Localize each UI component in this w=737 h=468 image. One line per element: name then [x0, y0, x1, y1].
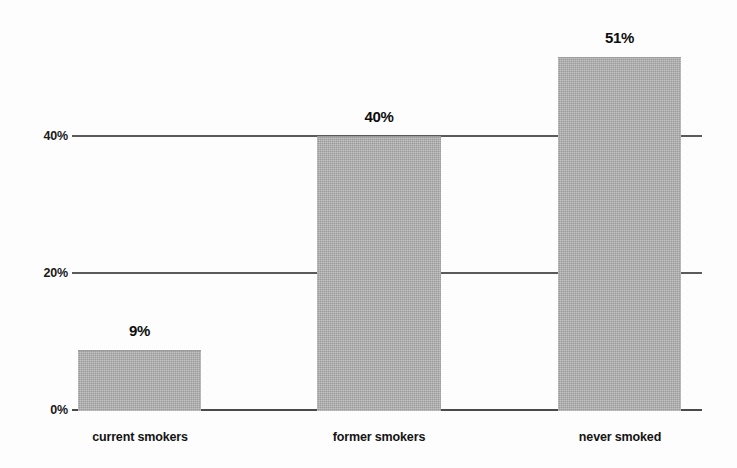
category-label-current-smokers: current smokers — [60, 430, 220, 444]
ytick-label-20: 20% — [6, 266, 68, 280]
bar-chart: 40% 20% 0% 9% 40% 51% current smokers fo… — [0, 0, 737, 468]
bar-value-current-smokers: 9% — [78, 322, 201, 339]
bar-former-smokers — [317, 136, 441, 411]
bar-current-smokers — [78, 350, 201, 411]
ytick-label-0: 0% — [6, 403, 68, 417]
bar-value-never-smoked: 51% — [558, 29, 681, 46]
category-label-never-smoked: never smoked — [540, 430, 700, 444]
category-label-former-smokers: former smokers — [299, 430, 459, 444]
bar-value-former-smokers: 40% — [317, 108, 441, 125]
ytick-label-40: 40% — [6, 129, 68, 143]
bar-never-smoked — [558, 57, 681, 411]
